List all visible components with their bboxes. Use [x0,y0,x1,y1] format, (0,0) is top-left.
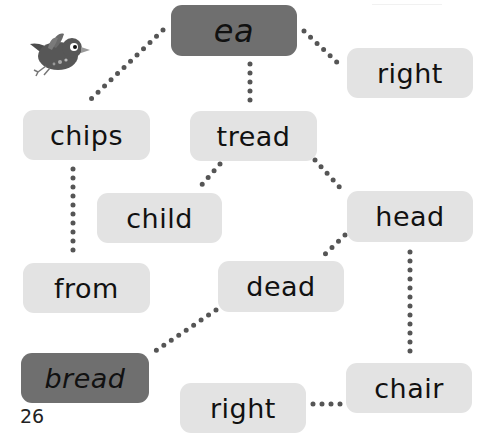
word-label: chips [50,120,123,151]
word-box-child: child [97,193,222,243]
link-ea-right [304,31,342,67]
faint-scan-mark [372,0,442,5]
word-box-right-top: right [347,48,473,98]
word-label: right [377,58,443,89]
link-dead-bread [151,310,216,354]
word-box-bread: bread [21,353,149,403]
page-number: 26 [20,406,44,427]
word-label: dead [246,271,315,302]
word-label: bread [44,363,125,394]
word-label: chair [374,373,444,404]
link-tread-child [199,164,220,188]
word-box-ea: ea [171,5,297,56]
word-label: ea [214,12,254,50]
word-box-dead: dead [218,261,344,312]
word-label: tread [217,121,291,152]
word-box-chips: chips [23,110,150,160]
word-box-head: head [347,191,473,242]
word-label: from [54,273,119,304]
word-box-tread: tread [190,111,317,161]
link-ea-chips [89,30,163,101]
link-tread-head [315,160,344,192]
word-box-right-bottom: right [180,383,306,433]
bird-icon [24,28,94,78]
word-label: child [126,203,193,234]
word-box-chair: chair [346,363,472,413]
word-label: right [210,393,276,424]
link-head-dead [322,235,345,257]
word-box-from: from [23,263,150,313]
word-label: head [375,201,444,232]
